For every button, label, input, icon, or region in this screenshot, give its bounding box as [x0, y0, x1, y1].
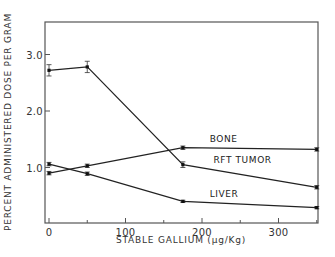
- chart: 0100200300 1.02.03.0 STABLE GALLIUM (µg/…: [0, 0, 335, 257]
- x-tick-label: 300: [269, 227, 289, 238]
- data-point: [86, 65, 89, 68]
- series-line: [49, 148, 317, 174]
- x-tick-label: 0: [46, 227, 53, 238]
- y-axis-title: PERCENT ADMINISTERED DOSE PER GRAM: [3, 13, 13, 231]
- y-axis-ticks: 1.02.03.0: [26, 50, 50, 174]
- y-tick-label: 1.0: [26, 163, 43, 174]
- x-axis-title: STABLE GALLIUM (µg/Kg): [116, 235, 246, 245]
- plot-frame: [45, 22, 318, 223]
- series-label: LIVER: [210, 189, 239, 199]
- series-bone: [47, 146, 320, 175]
- data-point: [315, 206, 318, 209]
- series-rft-tumor: [47, 61, 320, 189]
- data-point: [86, 172, 89, 175]
- series-labels: BONERFT TUMORLIVER: [210, 134, 272, 199]
- y-tick-label: 2.0: [26, 106, 43, 117]
- data-point: [315, 186, 318, 189]
- y-tick-label: 3.0: [26, 50, 43, 61]
- data-point: [47, 69, 50, 72]
- data-point: [47, 163, 50, 166]
- data-series: [47, 61, 320, 209]
- data-point: [181, 146, 184, 149]
- series-label: BONE: [210, 134, 238, 144]
- data-point: [315, 148, 318, 151]
- data-point: [47, 172, 50, 175]
- series-line: [49, 67, 317, 187]
- series-liver: [47, 162, 320, 209]
- data-point: [181, 163, 184, 166]
- series-label: RFT TUMOR: [213, 155, 271, 165]
- data-point: [181, 200, 184, 203]
- data-point: [86, 164, 89, 167]
